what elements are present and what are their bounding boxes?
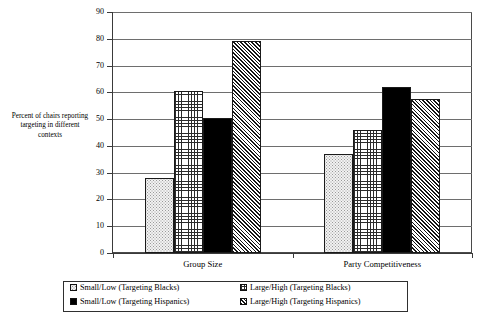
legend-label: Large/High (Targeting Blacks)	[250, 283, 351, 292]
legend-swatch-solid-icon	[70, 298, 77, 305]
x-tick-mark	[113, 253, 114, 258]
bars-layer	[113, 12, 472, 253]
x-tick-mark	[293, 253, 294, 258]
x-axis-line	[108, 253, 473, 254]
legend-item-small-low-blacks: Small/Low (Targeting Blacks)	[70, 283, 179, 292]
y-tick-label: 20	[82, 195, 104, 203]
legend-row-2: Small/Low (Targeting Hispanics) Large/Hi…	[64, 297, 407, 311]
legend-item-small-low-hispanics: Small/Low (Targeting Hispanics)	[70, 297, 189, 306]
y-tick-label: 80	[82, 35, 104, 43]
x-category-label: Party Competitiveness	[312, 259, 452, 269]
legend-row-1: Small/Low (Targeting Blacks) Large/High …	[64, 283, 407, 297]
y-tick-label: 70	[82, 62, 104, 70]
x-tick-mark	[472, 253, 473, 258]
legend-swatch-diagonal-icon	[240, 298, 247, 305]
y-axis-label-line-3: contexts	[2, 131, 98, 140]
legend-label: Small/Low (Targeting Blacks)	[80, 283, 179, 292]
bar	[232, 41, 261, 253]
y-tick-label: 30	[82, 169, 104, 177]
bar	[382, 87, 411, 253]
legend-item-large-high-blacks: Large/High (Targeting Blacks)	[240, 283, 351, 292]
y-tick-label: 60	[82, 88, 104, 96]
bar	[411, 99, 440, 253]
y-tick-label: 10	[82, 222, 104, 230]
legend-swatch-dotted-icon	[70, 284, 77, 291]
y-tick-label: 90	[82, 8, 104, 16]
y-tick-label: 50	[82, 115, 104, 123]
bar	[145, 178, 174, 253]
bar	[353, 130, 382, 253]
x-category-label: Group Size	[133, 259, 273, 269]
y-tick-label: 40	[82, 142, 104, 150]
bar	[203, 118, 232, 253]
y-tick-label: 0	[82, 249, 104, 257]
legend: Small/Low (Targeting Blacks) Large/High …	[63, 281, 408, 312]
legend-label: Small/Low (Targeting Hispanics)	[80, 297, 189, 306]
bar	[324, 154, 353, 253]
legend-swatch-grid-icon	[240, 284, 247, 291]
legend-label: Large/High (Targeting Hispanics)	[250, 297, 361, 306]
legend-item-large-high-hispanics: Large/High (Targeting Hispanics)	[240, 297, 361, 306]
bar-chart: Percent of chairs reporting targeting in…	[0, 0, 486, 328]
bar	[174, 91, 203, 253]
